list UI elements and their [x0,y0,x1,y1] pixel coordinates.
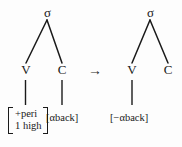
input-branch-sigma-to-c [47,20,62,63]
phonological-rule-figure: σ V C +peri 1 high [αback] → σ V C [−αba… [0,0,182,147]
output-feature-bundle-v: [−αback] [110,112,148,124]
input-feature-matrix-rows: +peri 1 high [13,107,43,134]
input-node-c-label: C [55,63,69,76]
input-node-v-label: V [19,63,33,76]
input-feature-matrix-v: +peri 1 high [8,107,48,134]
output-root-sigma-label: σ [144,6,157,19]
output-branch-sigma-to-v [132,20,150,63]
output-node-v-label: V [125,63,139,76]
input-root-sigma-label: σ [41,6,54,19]
input-feature-row-high: 1 high [15,120,42,132]
input-feature-row-peri: +peri [15,108,42,120]
input-feature-bundle-c: [αback] [46,112,78,124]
output-branch-sigma-to-c [150,20,168,63]
rewrite-arrow-icon: → [88,64,102,78]
output-node-c-label: C [161,63,175,76]
input-branch-sigma-to-v [26,20,47,63]
